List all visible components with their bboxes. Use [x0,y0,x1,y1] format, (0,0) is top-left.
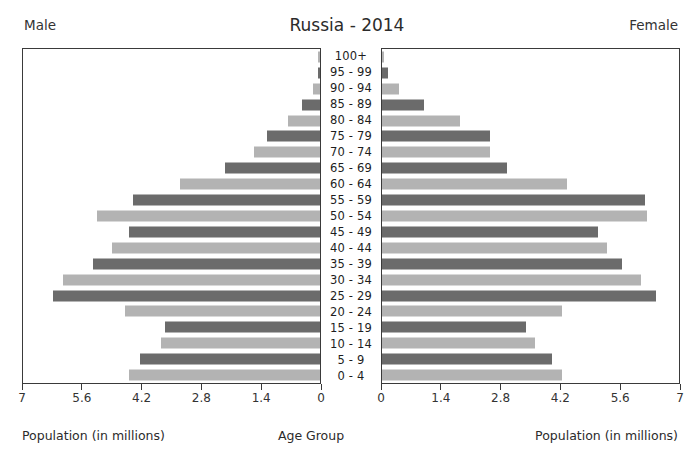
bar-row [23,129,320,145]
female-bar[interactable] [382,274,641,285]
male-bar[interactable] [125,306,320,317]
male-axis-tick [261,384,262,390]
female-axis-tick-label: 0 [377,391,385,405]
male-bar[interactable] [225,163,320,174]
male-bar[interactable] [63,274,320,285]
bar-row [23,97,320,113]
female-bar[interactable] [382,51,384,62]
female-axis-tick [440,384,441,390]
male-axis-tick [22,384,23,390]
bar-row [23,144,320,160]
bar-row [23,49,320,65]
age-group-label: 30 - 34 [321,272,381,288]
female-axis-tick-label: 1.4 [431,391,450,405]
male-axis-tick-label: 5.6 [72,391,91,405]
female-bar[interactable] [382,163,507,174]
male-bar[interactable] [254,147,320,158]
age-group-label: 20 - 24 [321,304,381,320]
male-axis-tick [321,384,322,390]
bar-row [23,256,320,272]
female-axis-tick [680,384,681,390]
bar-row [382,65,679,81]
male-axis-tick [81,384,82,390]
female-bar[interactable] [382,226,598,237]
population-pyramid-chart: Male Russia - 2014 Female 100+95 - 9990 … [0,0,694,467]
female-bar[interactable] [382,195,645,206]
male-bar[interactable] [140,354,320,365]
bar-row [23,224,320,240]
female-bar[interactable] [382,354,552,365]
male-bar[interactable] [161,338,320,349]
female-bar[interactable] [382,211,647,222]
female-bar[interactable] [382,131,490,142]
female-bar[interactable] [382,306,562,317]
female-bar[interactable] [382,99,424,110]
bar-row [382,351,679,367]
age-group-label: 100+ [321,48,381,64]
bar-row [23,272,320,288]
age-group-label: 60 - 64 [321,176,381,192]
bar-row [382,192,679,208]
male-axis-tick-label: 4.2 [132,391,151,405]
female-bar[interactable] [382,258,622,269]
bar-row [382,367,679,383]
bar-row [23,208,320,224]
male-bar[interactable] [267,131,320,142]
male-bars-container [23,49,320,383]
male-bar[interactable] [302,99,320,110]
age-group-label: 90 - 94 [321,80,381,96]
male-bar[interactable] [53,290,320,301]
age-group-label: 80 - 84 [321,112,381,128]
female-bar[interactable] [382,322,526,333]
male-bar[interactable] [129,370,320,381]
female-bar[interactable] [382,147,490,158]
bar-row [382,81,679,97]
age-group-label-column: 100+95 - 9990 - 9485 - 8980 - 8475 - 797… [321,48,381,384]
age-group-label: 5 - 9 [321,352,381,368]
male-axis-caption: Population (in millions) [22,428,165,443]
male-bar[interactable] [318,67,320,78]
bar-row [23,288,320,304]
female-bar[interactable] [382,242,607,253]
bar-row [382,160,679,176]
male-bar[interactable] [313,83,320,94]
female-bar[interactable] [382,290,656,301]
male-axis-tick-label: 7 [18,391,26,405]
bar-row [382,272,679,288]
bar-row [23,351,320,367]
female-axis-tick-label: 4.2 [551,391,570,405]
male-axis-tick-label: 0 [317,391,325,405]
male-bar[interactable] [318,51,320,62]
bar-row [23,319,320,335]
female-axis-tick [620,384,621,390]
bar-row [382,113,679,129]
male-axis-tick [141,384,142,390]
female-bars-container [382,49,679,383]
female-bar[interactable] [382,83,399,94]
female-bar[interactable] [382,115,460,126]
male-bar[interactable] [112,242,320,253]
female-axis-tick-label: 7 [676,391,684,405]
male-axis-tick-label: 1.4 [252,391,271,405]
male-bar[interactable] [133,195,320,206]
age-group-label: 45 - 49 [321,224,381,240]
bar-row [23,176,320,192]
age-group-label: 55 - 59 [321,192,381,208]
bar-row [382,176,679,192]
male-bar[interactable] [288,115,320,126]
female-axis-tick [500,384,501,390]
female-bar[interactable] [382,370,562,381]
age-group-label: 95 - 99 [321,64,381,80]
bar-row [382,256,679,272]
bar-row [382,224,679,240]
male-bar[interactable] [180,179,320,190]
bar-row [382,144,679,160]
male-bar[interactable] [97,211,320,222]
female-bar[interactable] [382,338,535,349]
male-bar[interactable] [93,258,320,269]
female-bar[interactable] [382,67,388,78]
bar-row [23,65,320,81]
male-bar[interactable] [165,322,320,333]
male-bar[interactable] [129,226,320,237]
female-bar[interactable] [382,179,567,190]
